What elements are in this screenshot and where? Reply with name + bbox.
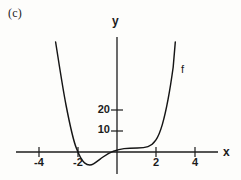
part-label: (c) — [8, 7, 22, 19]
figure-container: (c) y x f -4 -2 2 4 20 10 — [0, 0, 241, 180]
y-axis-title: y — [112, 15, 119, 27]
x-axis-title: x — [223, 146, 230, 158]
x-tick-label-plus2: 2 — [147, 157, 165, 168]
y-tick-label-10: 10 — [88, 124, 110, 135]
x-tick-label-minus4: -4 — [30, 157, 48, 168]
function-curve-f — [56, 42, 176, 165]
plot-svg — [0, 0, 241, 180]
x-tick-label-plus4: 4 — [186, 157, 204, 168]
x-tick-label-minus2: -2 — [69, 157, 87, 168]
curve-label-f: f — [181, 64, 184, 75]
y-tick-label-20: 20 — [88, 104, 110, 115]
